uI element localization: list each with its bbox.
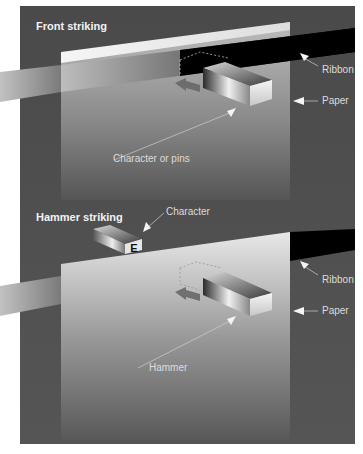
hammer-label: Hammer [149, 362, 187, 373]
hammer-striking-title: Hammer striking [36, 211, 123, 223]
paper-sheet-2 [61, 232, 290, 440]
character-or-pins-label: Character or pins [113, 153, 190, 164]
hammer-paper-label: Paper [322, 305, 349, 316]
front-paper-label: Paper [322, 95, 349, 106]
character-e-glyph: E [126, 242, 142, 254]
front-ribbon-label: Ribbon [322, 64, 354, 75]
hammer-ribbon-label: Ribbon [322, 274, 354, 285]
diagram-graphics [0, 0, 363, 454]
character-label: Character [166, 206, 210, 217]
printer-striking-diagram: Front striking Ribbon Paper Character or… [0, 0, 363, 454]
front-striking-title: Front striking [36, 20, 107, 32]
